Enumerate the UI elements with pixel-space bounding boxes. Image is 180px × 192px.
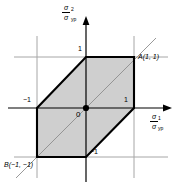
y-axis-label: σ σ <box>62 4 70 21</box>
x-axis-numerator-subscript: 1 <box>158 116 161 121</box>
y-axis-numerator-subscript: 2 <box>71 7 74 12</box>
y-axis-denominator: σ <box>62 12 70 21</box>
origin-dot <box>83 105 89 111</box>
x-axis-denominator-subscript: yp <box>158 126 163 131</box>
x-axis-arrowhead <box>163 105 172 112</box>
y-axis-numerator: σ <box>62 4 70 11</box>
x-tick-negative-one: −1 <box>23 96 31 103</box>
point-label-a: A(1, 1) <box>138 53 159 60</box>
x-axis-numerator: σ <box>150 113 158 120</box>
y-tick-positive-one: 1 <box>78 45 82 52</box>
y-axis-arrowhead <box>83 16 90 25</box>
x-axis-label: σ σ <box>150 113 158 130</box>
y-axis-denominator-subscript: yp <box>71 17 76 22</box>
y-tick-negative-one: −1 <box>90 148 98 155</box>
origin-label: 0 <box>76 111 80 119</box>
tresca-yield-locus-figure: σ σ 2 yp σ σ 1 yp 1 −1 −1 1 0 A(1, 1) B(… <box>0 0 180 192</box>
point-label-b: B(−1, −1) <box>4 161 33 168</box>
x-axis-denominator: σ <box>150 121 158 130</box>
x-tick-positive-one: 1 <box>124 96 128 103</box>
